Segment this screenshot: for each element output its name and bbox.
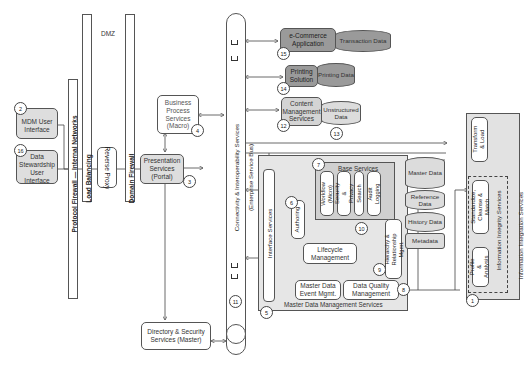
esb-label: Connectivity & Interoperability Services bbox=[233, 90, 240, 265]
unstructured-data-store[interactable]: Unstructured Data bbox=[321, 101, 361, 125]
load-balancing-bar: Load Balancing bbox=[82, 14, 92, 202]
profile-analysis[interactable]: Profile & Analysis bbox=[472, 247, 489, 287]
step-badge: 11 bbox=[229, 295, 242, 308]
step-badge: 9 bbox=[373, 263, 386, 276]
search[interactable]: Search bbox=[354, 171, 364, 216]
step-badge: 10 bbox=[355, 222, 368, 235]
master-data-store[interactable]: Master Data bbox=[405, 157, 445, 189]
esb-end-cap bbox=[226, 324, 246, 344]
printing-data-store[interactable]: Printing Data bbox=[317, 63, 355, 87]
reverse-proxy[interactable]: Reverse Proxy bbox=[97, 147, 117, 188]
domain-firewall-bar: Domain Firewall bbox=[125, 14, 135, 202]
metadata-store[interactable]: Metadata bbox=[405, 233, 445, 249]
reference-data-store[interactable]: Reference Data bbox=[405, 190, 445, 210]
step-badge: 6 bbox=[285, 196, 298, 209]
printing-solution[interactable]: Printing Solution bbox=[285, 65, 318, 87]
adapter-icon bbox=[231, 274, 238, 279]
step-badge: 14 bbox=[277, 82, 290, 95]
protocol-firewall-label: Protocol Firewall — Internal Networks bbox=[71, 143, 78, 233]
step-badge: 16 bbox=[14, 144, 27, 157]
data-quality-management[interactable]: Data Quality Management bbox=[343, 280, 399, 300]
transform-load[interactable]: Transform & Load bbox=[471, 117, 488, 162]
step-badge: 15 bbox=[277, 47, 290, 60]
transaction-data-store[interactable]: Transaction Data bbox=[335, 30, 391, 52]
mdm-title: Master Data Management Services bbox=[284, 301, 383, 308]
audit-logging[interactable]: Audit Logging bbox=[367, 171, 381, 216]
step-badge: 4 bbox=[191, 124, 204, 137]
hierarchy-relationship-mgmt[interactable]: Hierarchy & Relationship Mgmt. bbox=[385, 219, 402, 279]
step-badge: 2 bbox=[14, 102, 27, 115]
domain-firewall-label: Domain Firewall bbox=[128, 144, 135, 214]
dmz-label: DMZ bbox=[101, 30, 115, 37]
step-badge: 13 bbox=[330, 127, 343, 140]
load-balancing-label: Load Balancing bbox=[85, 144, 92, 214]
protocol-firewall-bar: Protocol Firewall — Internal Networks bbox=[68, 79, 78, 299]
standardize-cleanse-match[interactable]: Standardize, Cleanse & Match bbox=[472, 180, 489, 234]
step-badge: 8 bbox=[397, 283, 410, 296]
lifecycle-management[interactable]: Lifecycle Management bbox=[303, 243, 357, 264]
step-badge: 7 bbox=[312, 158, 325, 171]
step-badge: 5 bbox=[260, 306, 273, 319]
directory-security-services[interactable]: Directory & Security Services (Master) bbox=[141, 322, 211, 350]
step-badge: 3 bbox=[183, 175, 196, 188]
history-data-store[interactable]: History Data bbox=[405, 212, 445, 232]
interface-services[interactable]: Interface Services bbox=[263, 169, 275, 302]
master-data-event-mgmt[interactable]: Master Data Event Mgmt. bbox=[295, 280, 341, 300]
esb-sublabel: (Enterprise Service Bus) bbox=[247, 90, 254, 265]
security-privacy[interactable]: Security & Privacy bbox=[337, 171, 351, 216]
step-badge: 1 bbox=[466, 294, 479, 307]
step-badge: 12 bbox=[277, 119, 290, 132]
presentation-services[interactable]: Presentation Services (Portal) bbox=[140, 154, 184, 184]
workflow-micro[interactable]: Workflow (Micro) bbox=[320, 171, 334, 216]
adapter-icon bbox=[231, 263, 238, 268]
adapter-icon bbox=[231, 40, 238, 45]
adapter-icon bbox=[231, 56, 238, 61]
